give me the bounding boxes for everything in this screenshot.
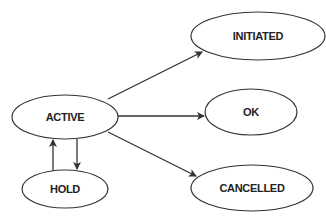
node-initiated[interactable]: INITIATED [191, 12, 325, 60]
node-cancelled[interactable]: CANCELLED [191, 165, 313, 211]
node-ok[interactable]: OK [205, 89, 297, 135]
edge-active-to-initiated [108, 52, 202, 99]
node-initiated-label: INITIATED [233, 30, 284, 42]
node-active-label: ACTIVE [46, 111, 85, 123]
node-active[interactable]: ACTIVE [12, 95, 118, 139]
node-hold[interactable]: HOLD [22, 170, 108, 208]
state-diagram: ACTIVE HOLD INITIATED OK CANCELLED [0, 0, 326, 221]
node-hold-label: HOLD [50, 183, 80, 195]
edge-active-to-cancelled [108, 132, 196, 176]
node-cancelled-label: CANCELLED [219, 182, 284, 194]
node-ok-label: OK [243, 106, 259, 118]
